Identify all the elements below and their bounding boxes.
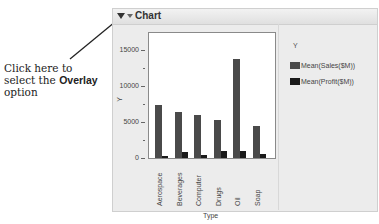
x-tick-label: Beverages xyxy=(176,173,183,206)
bar-profit-computer[interactable] xyxy=(201,155,207,158)
legend-label: Mean(Sales($M)) xyxy=(301,62,355,69)
bar-sales-computer[interactable] xyxy=(194,115,201,158)
x-axis-title: Type xyxy=(203,212,218,219)
bar-profit-aerospace[interactable] xyxy=(162,156,168,158)
bar-sales-drugs[interactable] xyxy=(214,120,221,158)
legend-swatch-sales xyxy=(290,62,300,69)
y-tick-label: 0 xyxy=(109,154,139,161)
y-minor-tick xyxy=(143,140,145,141)
y-tick-label: 10000 xyxy=(109,82,139,89)
overlay-option-label: Overlay xyxy=(59,74,98,86)
y-tick-mark xyxy=(141,86,145,87)
bar-sales-soap[interactable] xyxy=(253,126,260,158)
y-minor-tick xyxy=(143,68,145,69)
bar-profit-soap[interactable] xyxy=(260,154,266,158)
legend-swatch-profit xyxy=(290,78,300,85)
bar-sales-oil[interactable] xyxy=(233,59,240,158)
bar-profit-drugs[interactable] xyxy=(221,151,227,158)
y-axis-title: Y xyxy=(116,97,123,102)
y-tick-mark xyxy=(141,158,145,159)
legend-area xyxy=(278,24,377,210)
chart-panel-header: Chart xyxy=(113,9,377,25)
bar-sales-beverages[interactable] xyxy=(175,112,182,158)
y-tick-label: 5000 xyxy=(109,118,139,125)
x-tick-label: Oil xyxy=(234,197,241,206)
legend-item-profit[interactable]: Mean(Profit($M)) xyxy=(290,78,354,85)
y-tick-mark xyxy=(141,50,145,51)
callout-line-2: select the Overlay xyxy=(4,74,114,86)
x-tick-label: Aerospace xyxy=(156,173,163,206)
y-tick-label: 15000 xyxy=(109,46,139,53)
callout-line-1: Click here to xyxy=(4,62,114,74)
bar-profit-oil[interactable] xyxy=(240,151,246,158)
y-minor-tick xyxy=(143,104,145,105)
red-triangle-menu-icon[interactable] xyxy=(127,14,133,18)
panel-title: Chart xyxy=(135,10,161,21)
legend-item-sales[interactable]: Mean(Sales($M)) xyxy=(290,62,355,69)
x-tick-label: Computer xyxy=(195,175,202,206)
x-tick-label: Drugs xyxy=(215,187,222,206)
legend-label: Mean(Profit($M)) xyxy=(301,78,354,85)
x-tick-label: Soap xyxy=(254,190,261,206)
bar-sales-aerospace[interactable] xyxy=(155,105,162,158)
callout-annotation: Click here to select the Overlay option xyxy=(4,62,114,98)
callout-line-3: option xyxy=(4,86,114,98)
legend-title: Y xyxy=(293,42,298,49)
y-tick-mark xyxy=(141,122,145,123)
bar-profit-beverages[interactable] xyxy=(182,152,188,158)
disclosure-triangle-icon[interactable] xyxy=(117,13,125,19)
